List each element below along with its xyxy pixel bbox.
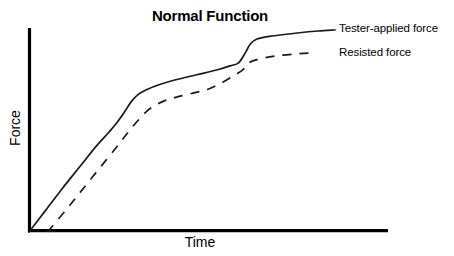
series-line-tester-applied-force [29,30,335,232]
y-axis-label: Force [7,98,23,158]
chart-plot-area [0,0,454,256]
legend-label-tester-applied-force: Tester-applied force [339,22,438,34]
normal-function-chart-figure: Normal Function Force Time Tester-applie… [0,0,454,256]
series-line-resisted-force [47,53,314,232]
legend-label-resisted-force: Resisted force [339,46,411,58]
x-axis-label: Time [145,234,255,250]
